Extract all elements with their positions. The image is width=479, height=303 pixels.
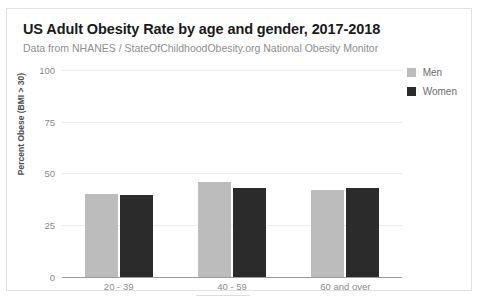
chart-card: US Adult Obesity Rate by age and gender,…: [6, 8, 472, 291]
bar-women-2[interactable]: [346, 188, 379, 277]
x-axis-line: [62, 277, 402, 279]
y-tick-label-100: 100: [39, 65, 55, 76]
plot-area: [62, 70, 402, 278]
bar-men-0[interactable]: [85, 194, 118, 277]
x-tick-label-1: 40 - 59: [217, 281, 247, 292]
bar-women-0[interactable]: [120, 195, 153, 277]
y-tick-label-0: 0: [50, 271, 55, 282]
bar-group: [289, 69, 402, 277]
chart-subtitle: Data from NHANES / StateOfChildhoodObesi…: [23, 42, 378, 54]
x-tick-label-2: 60 and over: [320, 281, 370, 292]
page-edge-artifact: [196, 295, 250, 296]
bars-layer: [62, 70, 402, 278]
legend-item-men[interactable]: Men: [407, 67, 457, 78]
chart-legend: Men Women: [407, 67, 457, 97]
bar-women-1[interactable]: [233, 188, 266, 277]
bar-men-1[interactable]: [198, 182, 231, 277]
legend-swatch-men-icon: [407, 68, 416, 77]
y-tick-label-25: 25: [44, 219, 55, 230]
bar-group: [62, 69, 175, 277]
y-axis-title: Percent Obese (BMI > 30): [16, 44, 26, 204]
x-tick-label-0: 20 - 39: [104, 281, 134, 292]
legend-label-men: Men: [423, 67, 442, 78]
legend-swatch-women-icon: [407, 87, 416, 96]
bar-men-2[interactable]: [311, 190, 344, 277]
bar-group: [175, 69, 288, 277]
legend-item-women[interactable]: Women: [407, 86, 457, 97]
legend-label-women: Women: [423, 86, 457, 97]
y-tick-label-75: 75: [44, 116, 55, 127]
page-title: US Adult Obesity Rate by age and gender,…: [23, 21, 380, 37]
y-axis-tick-labels: 0255075100: [25, 70, 55, 278]
y-tick-label-50: 50: [44, 168, 55, 179]
